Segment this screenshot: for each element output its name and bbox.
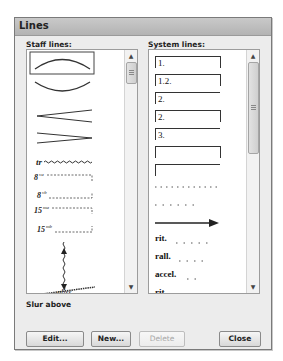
selection-highlight bbox=[30, 52, 94, 74]
scroll-up-arrow-icon[interactable]: ▲ bbox=[125, 51, 137, 61]
scroll-up-arrow-icon[interactable]: ▲ bbox=[247, 51, 259, 61]
svg-text:tr: tr bbox=[36, 157, 43, 167]
lines-dialog: Lines Staff lines: System lines: tr 8 va… bbox=[14, 17, 272, 350]
gliss-label: gliss. bbox=[57, 288, 74, 294]
system-lines-scroll-thumb[interactable] bbox=[248, 62, 259, 154]
svg-text:8: 8 bbox=[37, 191, 41, 200]
list-item[interactable]: rall. bbox=[155, 251, 217, 261]
list-item[interactable]: rit. bbox=[155, 287, 217, 294]
selected-line-description: Slur above bbox=[26, 300, 71, 309]
scroll-down-arrow-icon[interactable]: ▼ bbox=[247, 282, 259, 292]
system-lines-scrollbar[interactable]: ▲ ▼ bbox=[246, 50, 259, 293]
list-item[interactable]: accel. bbox=[155, 269, 217, 279]
svg-text:8: 8 bbox=[34, 173, 38, 182]
staff-lines-scroll-thumb[interactable] bbox=[126, 62, 137, 84]
title-bar[interactable]: Lines bbox=[15, 18, 271, 36]
svg-text:ma: ma bbox=[43, 205, 50, 210]
svg-text:mb: mb bbox=[46, 224, 53, 229]
svg-text:15: 15 bbox=[34, 206, 42, 215]
staff-lines-preview: tr 8 va 8 vb 15 ma 15 mb bbox=[27, 50, 123, 293]
list-item[interactable]: rit. bbox=[155, 233, 217, 243]
svg-text:va: va bbox=[39, 172, 44, 177]
edit-button[interactable]: Edit... bbox=[26, 331, 84, 347]
staff-lines-scrollbar[interactable]: ▲ ▼ bbox=[124, 50, 137, 293]
system-lines-label: System lines: bbox=[148, 40, 205, 49]
staff-lines-label: Staff lines: bbox=[26, 40, 72, 49]
scroll-down-arrow-icon[interactable]: ▼ bbox=[125, 282, 137, 292]
svg-text:15: 15 bbox=[37, 225, 45, 234]
staff-lines-list[interactable]: tr 8 va 8 vb 15 ma 15 mb gliss. bbox=[26, 49, 138, 294]
close-button[interactable]: Close bbox=[219, 331, 261, 347]
svg-text:vb: vb bbox=[42, 190, 47, 195]
delete-button[interactable]: Delete bbox=[139, 331, 185, 347]
dialog-title: Lines bbox=[19, 20, 49, 31]
system-lines-list[interactable]: 1. 1.2. 2. 2. 3. rit. rall. accel. rit. … bbox=[148, 49, 260, 294]
new-button[interactable]: New... bbox=[91, 331, 131, 347]
